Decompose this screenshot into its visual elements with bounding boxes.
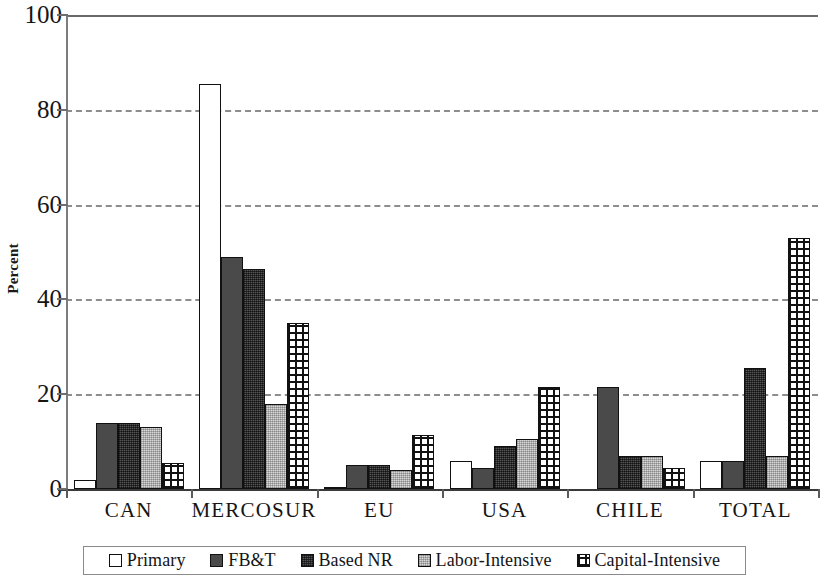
bar-chile-capital-intensive (663, 468, 685, 489)
bar-total-based-nr (744, 368, 766, 489)
x-tick-mark-5 (693, 489, 695, 498)
y-tick-label-80: 80 (6, 97, 62, 122)
bar-can-based-nr (118, 423, 140, 489)
bar-total-labor-intensive (766, 456, 788, 489)
bar-chart: Percent 020406080100 CANMERCOSUREUUSACHI… (0, 0, 827, 579)
bar-usa-labor-intensive (516, 439, 538, 489)
legend-label: Primary (127, 550, 186, 571)
bar-mercosur-primary (199, 84, 221, 489)
bar-chile-based-nr (619, 456, 641, 489)
bar-usa-based-nr (494, 446, 516, 489)
x-tick-mark-0 (66, 489, 68, 498)
swatch-solid-dark-icon (210, 554, 223, 567)
x-label-can: CAN (66, 498, 191, 523)
x-label-mercosur: MERCOSUR (191, 498, 316, 523)
x-tick-mark-3 (442, 489, 444, 498)
legend-label: Labor-Intensive (436, 550, 552, 571)
bar-can-fb-t (96, 423, 118, 489)
bar-chile-labor-intensive (641, 456, 663, 489)
bar-eu-capital-intensive (412, 435, 434, 490)
bar-eu-labor-intensive (390, 470, 412, 489)
y-tick-label-100: 100 (6, 2, 62, 27)
bar-eu-primary (324, 487, 346, 489)
x-label-chile: CHILE (567, 498, 692, 523)
swatch-stipple-dark-icon (301, 554, 314, 567)
bar-total-primary (700, 461, 722, 489)
legend-label: FB&T (228, 550, 275, 571)
bar-mercosur-fb-t (221, 257, 243, 489)
y-tick-label-20: 20 (6, 381, 62, 406)
plot-area (66, 15, 818, 489)
legend-item-capital-intensive: Capital-Intensive (577, 550, 721, 571)
y-tick-label-60: 60 (6, 192, 62, 217)
legend-label: Based NR (319, 550, 393, 571)
y-tick-label-40: 40 (6, 286, 62, 311)
bar-chile-fb-t (597, 387, 619, 489)
legend-item-fb-t: FB&T (210, 550, 275, 571)
x-tick-mark-end (818, 489, 820, 498)
legend-item-labor-intensive: Labor-Intensive (418, 550, 552, 571)
chart-legend: PrimaryFB&TBased NRLabor-IntensiveCapita… (83, 546, 746, 575)
bar-mercosur-labor-intensive (265, 404, 287, 489)
bar-total-fb-t (722, 461, 744, 489)
x-label-usa: USA (442, 498, 567, 523)
legend-item-primary: Primary (109, 550, 186, 571)
x-axis-category-labels: CANMERCOSUREUUSACHILETOTAL (66, 498, 818, 528)
y-axis-tick-labels: 020406080100 (0, 0, 62, 579)
bar-usa-fb-t (472, 468, 494, 489)
y-tick-label-0: 0 (6, 476, 62, 501)
x-axis-line (58, 489, 818, 491)
x-label-eu: EU (317, 498, 442, 523)
bar-usa-primary (450, 461, 472, 489)
x-tick-mark-4 (567, 489, 569, 498)
bar-mercosur-based-nr (243, 269, 265, 489)
swatch-checkerboard-icon (577, 554, 590, 567)
bar-mercosur-capital-intensive (287, 323, 309, 489)
bar-can-primary (74, 480, 96, 489)
x-tick-mark-1 (191, 489, 193, 498)
bars-layer (66, 15, 818, 489)
bar-can-capital-intensive (162, 463, 184, 489)
legend-item-based-nr: Based NR (301, 550, 393, 571)
legend-label: Capital-Intensive (595, 550, 721, 571)
bar-usa-capital-intensive (538, 387, 560, 489)
x-tick-mark-2 (317, 489, 319, 498)
swatch-stipple-light-icon (418, 554, 431, 567)
bar-can-labor-intensive (140, 427, 162, 489)
bar-total-capital-intensive (788, 238, 810, 489)
bar-eu-based-nr (368, 465, 390, 489)
bar-eu-fb-t (346, 465, 368, 489)
x-label-total: TOTAL (693, 498, 818, 523)
swatch-open-white-icon (109, 554, 122, 567)
